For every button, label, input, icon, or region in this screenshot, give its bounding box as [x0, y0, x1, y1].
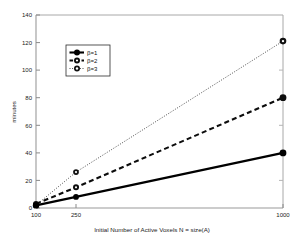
data-point-beta1-1000 [280, 150, 287, 157]
data-point-beta1-100 [33, 202, 39, 208]
data-point-beta3-250-inner [75, 171, 77, 173]
legend: β=1 β=2 β=3 [66, 45, 110, 76]
x-tick-label-250: 250 [71, 212, 82, 218]
y-tick-label-100: 100 [22, 67, 33, 73]
data-point-beta2-250-inner [75, 186, 77, 188]
chart-canvas: 0 20 40 60 80 100 120 140 100 250 1000 I… [0, 0, 304, 248]
x-tick-label-1000: 1000 [276, 212, 290, 218]
y-tick-label-40: 40 [25, 150, 32, 156]
legend-marker-beta-2-inner [76, 59, 78, 61]
legend-label-beta-1: β=1 [87, 50, 98, 56]
figure-container: 0 20 40 60 80 100 120 140 100 250 1000 I… [0, 0, 304, 248]
data-point-beta2-1000 [280, 94, 287, 101]
x-axis-title: Initial Number of Active Voxels N = size… [94, 226, 210, 233]
y-tick-label-20: 20 [25, 178, 32, 184]
x-tick-label-100: 100 [31, 212, 42, 218]
legend-label-beta-3: β=3 [87, 66, 98, 72]
y-tick-label-120: 120 [22, 40, 33, 46]
data-point-beta1-250 [73, 194, 79, 200]
legend-marker-beta-3-inner [76, 67, 78, 69]
data-point-beta3-1000-inner [282, 40, 284, 42]
y-tick-label-80: 80 [25, 95, 32, 101]
y-tick-label-60: 60 [25, 123, 32, 129]
figure-background [0, 0, 304, 248]
legend-label-beta-2: β=2 [87, 58, 98, 64]
y-tick-label-140: 140 [22, 12, 33, 18]
legend-marker-beta-1 [74, 50, 80, 56]
y-axis-title: minutes [10, 101, 17, 123]
